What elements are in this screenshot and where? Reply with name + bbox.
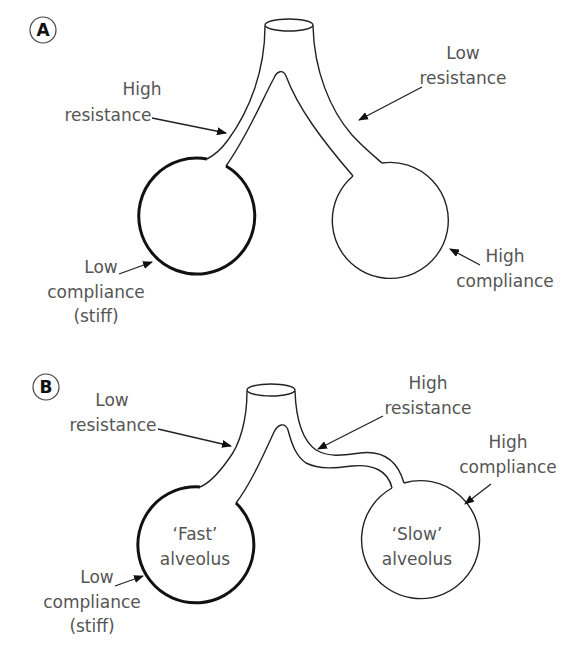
label-high-compliance-a: High compliance [450, 246, 554, 291]
svg-text:resistance: resistance [384, 398, 471, 418]
alveoli-diagram: A High resistance Low resistance Low com… [0, 0, 563, 649]
svg-text:Low: Low [80, 567, 114, 587]
svg-text:Low: Low [84, 257, 118, 277]
svg-text:compliance: compliance [43, 592, 141, 612]
arrow-icon [318, 416, 383, 449]
arrow-icon [450, 249, 480, 265]
fast-alveolus-b [138, 487, 254, 603]
svg-text:‘Slow’: ‘Slow’ [392, 524, 443, 544]
arrow-icon [115, 576, 143, 586]
svg-text:Low: Low [446, 43, 480, 63]
svg-text:resistance: resistance [69, 415, 156, 435]
svg-text:Low: Low [95, 390, 129, 410]
left-airway-outer-wall-a [207, 26, 265, 159]
badge-b-letter: B [40, 377, 53, 397]
carina-a [226, 72, 353, 176]
slow-alveolus-label: ‘Slow’ alveolus [382, 524, 453, 569]
arrow-icon [465, 484, 491, 504]
arrow-icon [152, 118, 226, 133]
airway-opening-a [265, 19, 313, 31]
badge-b: B [33, 374, 59, 400]
label-high-resistance-a: High resistance [64, 79, 226, 133]
svg-text:compliance: compliance [456, 271, 554, 291]
svg-text:compliance: compliance [47, 282, 145, 302]
svg-text:High: High [408, 373, 447, 393]
svg-text:(stiff): (stiff) [69, 616, 114, 636]
svg-text:High: High [485, 246, 524, 266]
right-alveolus-a [332, 162, 448, 278]
arrow-icon [119, 262, 152, 274]
svg-text:compliance: compliance [459, 457, 557, 477]
label-high-compliance-b: High compliance [459, 432, 557, 504]
svg-text:(stiff): (stiff) [73, 306, 118, 326]
panel-b: B ‘Fast’ alveolus ‘Slow’ alveolus Low re… [33, 373, 557, 636]
carina-b [236, 425, 392, 503]
label-low-resistance-a: Low resistance [359, 43, 507, 120]
badge-a: A [30, 17, 56, 43]
arrow-icon [158, 429, 231, 446]
panel-a: A High resistance Low resistance Low com… [30, 17, 554, 326]
right-airway-outer-wall-a [313, 26, 382, 163]
label-low-resistance-b: Low resistance [69, 390, 231, 446]
svg-text:alveolus: alveolus [382, 549, 453, 569]
label-high-resistance-b: High resistance [318, 373, 472, 449]
fast-alveolus-label: ‘Fast’ alveolus [160, 524, 231, 569]
svg-text:High: High [488, 432, 527, 452]
left-alveolus-a [139, 158, 255, 274]
svg-text:resistance: resistance [64, 105, 151, 125]
svg-text:High: High [122, 79, 161, 99]
label-low-compliance-b: Low compliance (stiff) [43, 567, 143, 636]
badge-a-letter: A [36, 20, 50, 40]
svg-text:resistance: resistance [419, 68, 506, 88]
arrow-icon [359, 87, 422, 120]
svg-text:‘Fast’: ‘Fast’ [173, 524, 218, 544]
left-airway-outer-wall-b [200, 391, 247, 487]
label-low-compliance-a: Low compliance (stiff) [47, 257, 152, 326]
svg-text:alveolus: alveolus [160, 549, 231, 569]
airway-opening-b [247, 384, 295, 396]
